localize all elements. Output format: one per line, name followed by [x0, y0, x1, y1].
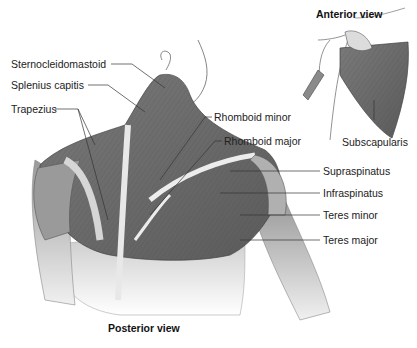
label-trapezius: Trapezius [11, 103, 57, 115]
label-subscapularis: Subscapularis [342, 136, 408, 148]
label-teres-major: Teres major [323, 234, 378, 246]
label-infraspinatus: Infraspinatus [323, 187, 383, 199]
label-rhomboid-minor: Rhomboid minor [214, 111, 291, 123]
posterior-view-title: Posterior view [108, 322, 180, 334]
muscle-diagram: Anterior view Posterior view Sternocleid… [0, 0, 417, 348]
label-sternocleidomastoid: Sternocleidomastoid [11, 58, 106, 70]
anterior-scapula [303, 8, 408, 140]
label-splenius-capitis: Splenius capitis [11, 79, 84, 91]
label-teres-minor: Teres minor [323, 209, 378, 221]
label-supraspinatus: Supraspinatus [323, 165, 390, 177]
anterior-view-title: Anterior view [316, 8, 383, 20]
biceps-tendon [303, 70, 324, 100]
label-rhomboid-major: Rhomboid major [224, 135, 301, 147]
